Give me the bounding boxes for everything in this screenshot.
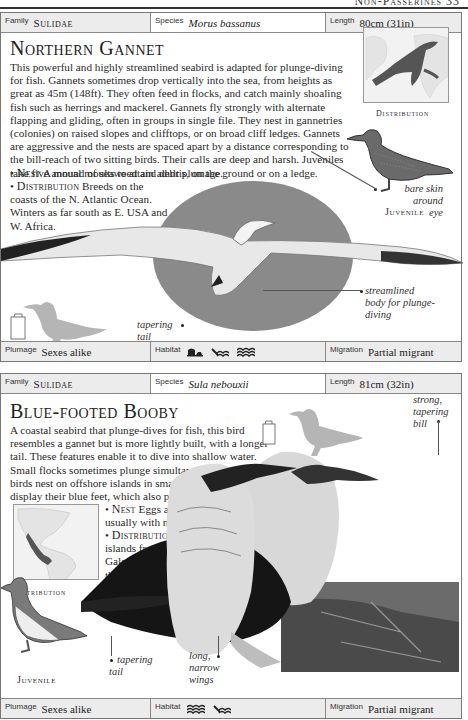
migration-label: Migration — [330, 345, 363, 354]
attributes-bar: Plumage Sexes alike Habitat Migration Pa… — [1, 341, 461, 361]
rocky-shore-icon — [213, 704, 231, 714]
plumage-label: Plumage — [5, 345, 37, 354]
species-cell: Species Sula nebouxii — [151, 374, 326, 393]
length-value: 81cm (32in) — [359, 378, 413, 390]
leader-line — [111, 636, 112, 656]
distribution-map — [363, 27, 449, 103]
annotation-line: bare skin — [405, 183, 443, 194]
annotation-bill: strong, tapering bill — [413, 394, 461, 430]
annotation-line: strong, — [413, 394, 442, 405]
annotation-line: around — [413, 195, 443, 206]
rocky-shore-icon — [211, 347, 229, 357]
taxonomy-bar: Family Sulidae Species Sula nebouxii Len… — [1, 374, 461, 394]
annotation-dot — [110, 659, 113, 662]
family-value: Sulidae — [34, 17, 73, 29]
annotation-eye: bare skin around eye — [381, 183, 443, 219]
annotation-line: bill — [413, 418, 427, 429]
blue-footed-booby-photo-icon — [81, 422, 461, 672]
plumage-cell: Plumage Sexes alike — [1, 699, 151, 718]
leader-line — [263, 290, 361, 291]
nest-label: Nest — [17, 166, 41, 180]
annotation-dot — [181, 324, 184, 327]
migration-cell: Migration Partial migrant — [326, 342, 461, 361]
plumage-cell: Plumage Sexes alike — [1, 342, 151, 361]
running-head-rule — [0, 7, 468, 9]
nest-text: A mound of seaweed and debris, on the gr… — [43, 167, 318, 179]
annotation-line: tapering — [413, 406, 449, 417]
annotation-tail: tapering tail — [109, 654, 169, 678]
annotation-dot — [217, 655, 220, 658]
map-caption: Distribution — [376, 109, 429, 118]
atlantic-map-icon — [364, 28, 449, 103]
plumage-label: Plumage — [5, 702, 37, 711]
annotation-line: long, — [189, 650, 210, 661]
habitat-label: Habitat — [155, 345, 180, 354]
open-sea-icon — [237, 347, 255, 357]
species-title: Blue-footed Booby — [10, 400, 179, 423]
family-value: Sulidae — [34, 378, 73, 390]
migration-value: Partial migrant — [368, 346, 434, 358]
annotation-line: diving — [365, 309, 391, 320]
species-label: Species — [155, 377, 183, 386]
migration-label: Migration — [330, 702, 363, 711]
migration-value: Partial migrant — [368, 703, 434, 715]
plumage-value: Sexes alike — [42, 346, 92, 358]
family-cell: Family Sulidae — [1, 374, 151, 393]
species-entry-blue-footed-booby: Family Sulidae Species Sula nebouxii Len… — [0, 373, 462, 719]
species-value: Sula nebouxii — [188, 378, 248, 390]
species-title: Northern Gannet — [10, 37, 164, 60]
annotation-tail: tapering tail — [137, 319, 187, 343]
length-label: Length — [330, 16, 354, 25]
family-label: Family — [5, 16, 29, 25]
species-value: Morus bassanus — [188, 17, 260, 29]
migration-cell: Migration Partial migrant — [326, 699, 461, 718]
length-label: Length — [330, 377, 354, 386]
annotation-line: eye — [429, 207, 443, 218]
running-head: Non-Passerines 33 — [0, 0, 468, 9]
annotation-line: wings — [189, 674, 214, 685]
length-cell: Length 81cm (32in) — [326, 374, 461, 393]
annotation-body: streamlined body for plunge- diving — [365, 285, 455, 321]
description-text: This powerful and highly streamlined sea… — [10, 61, 349, 179]
annotation-line: tail — [109, 666, 123, 677]
juvenile-caption: Juvenile — [17, 674, 56, 685]
distribution-label: Distribution — [17, 179, 80, 193]
annotation-line: body for plunge- — [365, 297, 435, 308]
leader-line — [438, 421, 439, 455]
family-cell: Family Sulidae — [1, 13, 151, 32]
distribution-line: Breeds on the — [82, 180, 144, 192]
annotation-line: tapering — [117, 654, 153, 665]
species-label: Species — [155, 16, 183, 25]
juvenile-booby-illustration-icon — [1, 576, 91, 672]
annotation-line: narrow — [189, 662, 220, 673]
attributes-bar: Plumage Sexes alike Habitat Migration Pa… — [1, 698, 461, 718]
annotation-line: tapering — [137, 319, 173, 330]
habitat-cell: Habitat — [151, 342, 326, 361]
annotation-line: streamlined — [365, 285, 414, 296]
habitat-label: Habitat — [155, 702, 180, 711]
species-entry-northern-gannet: Family Sulidae Species Morus bassanus Le… — [0, 12, 462, 362]
plumage-value: Sexes alike — [42, 703, 92, 715]
cliff-coast-icon — [187, 347, 203, 357]
species-cell: Species Morus bassanus — [151, 13, 326, 32]
habitat-cell: Habitat — [151, 699, 326, 718]
family-label: Family — [5, 377, 29, 386]
species-description: This powerful and highly streamlined sea… — [10, 61, 350, 180]
open-sea-icon — [187, 704, 205, 714]
